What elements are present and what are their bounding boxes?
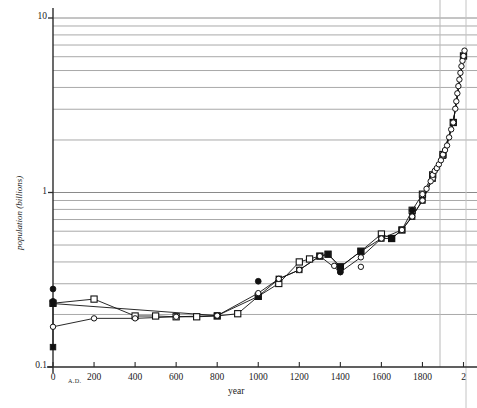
data-point-open-circle [459,64,464,69]
data-point-filled-square [325,251,331,257]
data-point-open-circle [420,198,425,203]
y-tick-label-1: 1 [16,187,47,197]
data-point-open-circle [458,70,463,75]
data-point-open-square [306,256,312,262]
data-point-open-circle [428,179,433,184]
series-line-estimate-open-square [53,56,464,317]
data-point-open-circle [50,324,55,329]
data-point-filled-square [50,344,56,350]
data-point-filled-circle [389,236,395,242]
data-point-filled-circle [50,286,56,292]
data-point-open-circle [173,314,178,319]
data-point-open-circle [379,236,384,241]
data-point-open-circle [317,253,322,258]
x-tick-label-1600: 1600 [370,373,392,383]
x-tick-label-0: 0 [42,373,64,383]
x-tick-label-200: 200 [83,373,105,383]
data-point-open-circle [358,264,363,269]
data-point-filled-circle [409,207,415,213]
x-tick-label-800: 800 [206,373,228,383]
data-point-open-square [296,259,302,265]
data-point-open-circle [461,53,466,58]
x-tick-label-1400: 1400 [329,373,351,383]
data-point-open-square [153,313,159,319]
data-point-open-circle [358,255,363,260]
data-point-open-circle [399,227,404,232]
y-tick-label-0.1: 0.1 [16,361,47,371]
data-point-open-circle [462,48,467,53]
ad-era-label: A.D. [68,377,81,384]
data-point-open-circle [438,158,443,163]
data-point-open-circle [331,263,336,268]
data-point-open-circle [456,83,461,88]
data-point-filled-circle [255,278,261,284]
data-point-open-circle [276,276,281,281]
data-point-open-circle [256,290,261,295]
x-axis-label: year [228,386,244,396]
chart-plot-area [0,0,477,408]
data-point-open-circle [446,135,451,140]
data-point-open-circle [444,143,449,148]
data-point-open-square [194,314,200,320]
data-point-open-circle [424,186,429,191]
data-point-open-circle [453,106,458,111]
data-point-open-circle [409,214,414,219]
data-point-open-circle [132,316,137,321]
data-point-open-circle [451,120,456,125]
y-tick-label-10: 10 [16,12,47,22]
x-tick-label-400: 400 [124,373,146,383]
data-point-open-circle [448,127,453,132]
data-point-open-circle [454,99,459,104]
data-point-open-square [91,296,97,302]
series-line-estimate-open-circle [53,56,464,327]
data-point-filled-square [358,249,364,255]
x-tick-label-600: 600 [165,373,187,383]
data-point-open-circle [91,316,96,321]
population-chart-figure: population (billions) year 0200400600800… [0,0,477,408]
x-tick-label-1800: 1800 [411,373,433,383]
series-line-estimate-filled-square [53,56,464,347]
data-point-filled-circle [337,269,343,275]
x-tick-label-1000: 1000 [247,373,269,383]
data-point-open-square [235,311,241,317]
data-point-open-circle [297,267,302,272]
data-point-open-circle [215,313,220,318]
x-tick-label-1200: 1200 [288,373,310,383]
data-point-open-circle [457,77,462,82]
x-tick-label-2000: 2 [453,373,475,383]
data-point-open-circle [455,91,460,96]
data-point-filled-circle [50,298,56,304]
data-point-open-circle [420,191,425,196]
